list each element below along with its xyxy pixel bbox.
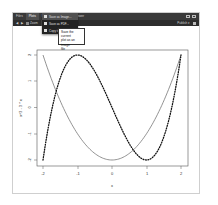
menu-item-label: Save as Image... bbox=[49, 15, 72, 19]
tooltip-line: plot as an image bbox=[61, 38, 82, 46]
image-icon bbox=[44, 15, 47, 18]
pdf-icon bbox=[44, 22, 47, 25]
x-tick-label: -2 bbox=[41, 171, 45, 176]
x-axis-label: x bbox=[111, 183, 113, 188]
y-tick-label: 0 bbox=[27, 106, 32, 109]
x-tick-label: 1 bbox=[146, 171, 149, 176]
plot-canvas: -2 -1 0 1 2 2 1 0 -1 -2 x x^3 - 3 * x bbox=[0, 0, 218, 205]
tooltip-line: file bbox=[61, 47, 82, 51]
x-tick-label: -1 bbox=[76, 171, 80, 176]
tooltip: Save the current plot as an image file bbox=[58, 28, 85, 45]
menu-item-save-as-pdf[interactable]: Save as PDF... bbox=[42, 20, 78, 27]
y-tick-label: 1 bbox=[27, 79, 32, 82]
y-tick-label: -1 bbox=[27, 131, 32, 135]
x-axis bbox=[43, 166, 181, 169]
dotted-curve-series bbox=[43, 55, 181, 160]
y-tick-label: -2 bbox=[27, 157, 32, 161]
tooltip-line: Save the current bbox=[61, 30, 82, 38]
y-tick-labels: 2 1 0 -1 -2 bbox=[27, 53, 32, 162]
menu-item-save-as-image[interactable]: Save as Image... bbox=[42, 13, 78, 20]
x-tick-label: 2 bbox=[180, 171, 183, 176]
y-axis-label: x^3 - 3 * x bbox=[18, 99, 23, 117]
menu-item-label: Save as PDF... bbox=[49, 22, 69, 26]
y-axis bbox=[34, 55, 37, 160]
x-tick-label: 0 bbox=[111, 171, 114, 176]
y-tick-label: 2 bbox=[27, 53, 32, 56]
x-tick-labels: -2 -1 0 1 2 bbox=[41, 171, 183, 176]
clipboard-icon bbox=[44, 29, 47, 32]
